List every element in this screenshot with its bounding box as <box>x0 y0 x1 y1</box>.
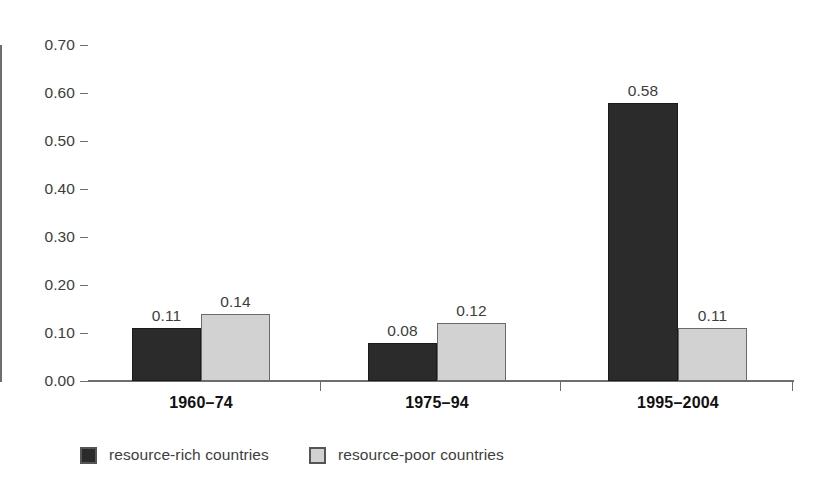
cropped-source-line <box>8 486 428 492</box>
y-axis-tick-label: 0.10 <box>44 324 75 342</box>
bar-1975-94-resource-rich: 0.08 <box>368 343 437 381</box>
x-axis-category-label-1995-2004: 1995–2004 <box>637 394 719 412</box>
x-axis-category-label-1975-94: 1975–94 <box>405 394 469 412</box>
bar-value-label: 0.58 <box>628 82 659 100</box>
y-axis-tick-label: 0.70 <box>44 36 75 54</box>
x-axis-category-label-1960-74: 1960–74 <box>169 394 233 412</box>
x-axis-end-tick <box>792 382 793 391</box>
bar-value-label: 0.12 <box>456 302 487 320</box>
y-axis-tick-label: 0.00 <box>44 372 75 390</box>
bar-1960-74-resource-poor: 0.14 <box>201 314 270 381</box>
plot-area: 0.11 0.14 0.08 0.12 0.58 0.11 <box>88 45 793 381</box>
bar-value-label: 0.08 <box>387 322 418 340</box>
bar-1995-2004-resource-rich: 0.58 <box>608 103 678 381</box>
y-axis-line <box>0 45 2 382</box>
bar-value-label: 0.11 <box>152 307 181 325</box>
legend-item-resource-poor: resource-poor countries <box>309 446 504 464</box>
y-axis-tick-label: 0.60 <box>44 84 75 102</box>
y-axis-tick-label: 0.20 <box>44 276 75 294</box>
bar-1995-2004-resource-poor: 0.11 <box>678 328 747 381</box>
x-axis-separator-tick <box>560 382 561 391</box>
legend-swatch-light-icon <box>309 447 326 464</box>
bar-1975-94-resource-poor: 0.12 <box>437 323 506 381</box>
legend-label: resource-rich countries <box>109 446 269 464</box>
bar-1960-74-resource-rich: 0.11 <box>132 328 201 381</box>
legend-item-resource-rich: resource-rich countries <box>80 446 269 464</box>
legend-swatch-dark-icon <box>80 447 97 464</box>
x-axis-separator-tick <box>320 382 321 391</box>
chart-legend: resource-rich countries resource-poor co… <box>80 446 504 464</box>
bar-chart: 0.70 0.60 0.50 0.40 0.30 0.20 0.10 0.00 … <box>0 0 824 492</box>
bar-value-label: 0.14 <box>220 293 251 311</box>
bar-value-label: 0.11 <box>698 307 727 325</box>
y-axis-tick-label: 0.50 <box>44 132 75 150</box>
y-axis-tick-label: 0.30 <box>44 228 75 246</box>
legend-label: resource-poor countries <box>338 446 504 464</box>
y-axis-tick-label: 0.40 <box>44 180 75 198</box>
